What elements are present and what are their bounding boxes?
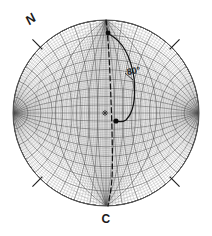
data-point-lower: [113, 118, 118, 123]
panel-label: C: [0, 212, 212, 226]
figure-panel: N 80° C: [0, 0, 212, 236]
center-asterisk-marker: [102, 110, 108, 116]
stereonet-svg: [0, 0, 212, 236]
data-point-upper: [106, 31, 111, 36]
